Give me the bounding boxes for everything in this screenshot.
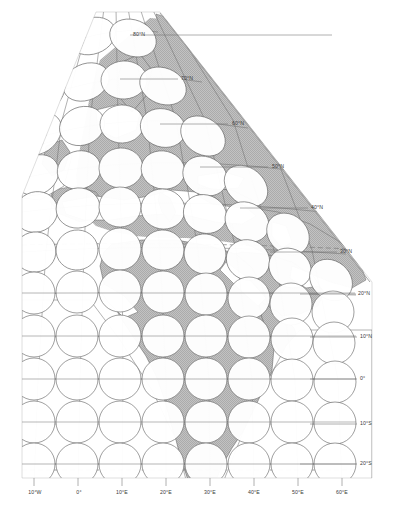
indicatrix: [21, 15, 80, 77]
indicatrix: [271, 359, 313, 401]
lat-label-20S: 20°S: [360, 460, 372, 466]
lat-label-70N: 70°N: [181, 75, 193, 81]
lon-label-60E: 60°E: [329, 489, 355, 495]
indicatrix: [185, 273, 227, 315]
longitude-tick-marks: [34, 478, 342, 486]
lon-label-30E: 30°E: [197, 489, 223, 495]
indicatrix: [271, 318, 313, 360]
indicatrix: [228, 316, 270, 358]
indicatrix: [228, 277, 270, 319]
lat-label-30N: 30°N: [340, 248, 352, 254]
indicatrix: [99, 187, 142, 228]
lat-label-10N: 10°N: [360, 333, 372, 339]
map-canvas: [0, 0, 393, 515]
lat-label-80N: 80°N: [133, 31, 145, 37]
tissot-map-figure: 80°N 70°N 60°N 50°N 40°N 30°N 20°N 10°N …: [0, 0, 393, 515]
lon-label-10E: 10°E: [109, 489, 135, 495]
lat-label-60N: 60°N: [232, 120, 244, 126]
lon-label-0: 0°: [68, 489, 90, 495]
indicatrix: [313, 322, 355, 364]
lat-label-10S: 10°S: [360, 420, 372, 426]
lat-label-40N: 40°N: [311, 204, 323, 210]
lon-label-40E: 40°E: [241, 489, 267, 495]
indicatrix: [314, 361, 356, 403]
indicatrix: [314, 402, 356, 444]
indicatrix: [142, 271, 184, 313]
lat-label-20N: 20°N: [358, 290, 370, 296]
indicatrix: [99, 228, 141, 270]
lon-label-10W: 10°W: [22, 489, 48, 495]
lon-label-20E: 20°E: [153, 489, 179, 495]
indicatrix: [56, 271, 98, 313]
lat-label-0: 0°: [360, 375, 365, 381]
indicatrix: [9, 227, 60, 277]
lon-label-50E: 50°E: [285, 489, 311, 495]
indicatrix: [99, 270, 141, 312]
lat-label-50N: 50°N: [272, 163, 284, 169]
indicatrix: [53, 227, 100, 272]
